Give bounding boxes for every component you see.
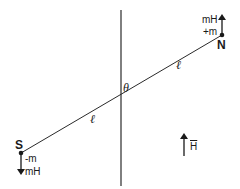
- south-force-label: mH: [25, 167, 41, 177]
- field-label: H: [190, 142, 197, 152]
- north-pole-label: N: [217, 39, 226, 51]
- north-force-label: mH: [202, 15, 218, 25]
- length-label-upper: ℓ: [176, 59, 181, 71]
- north-charge-label: +m: [203, 27, 217, 37]
- length-label-lower: ℓ: [90, 113, 95, 125]
- angle-label: θ: [123, 82, 129, 94]
- south-charge-label: -m: [25, 154, 37, 164]
- south-pole-label: S: [15, 139, 23, 151]
